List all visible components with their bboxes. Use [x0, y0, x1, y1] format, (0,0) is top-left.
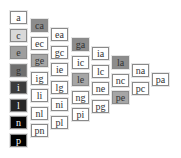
cell-e: e [10, 46, 27, 59]
cell-ne: ne [92, 82, 109, 95]
cell-p: p [10, 134, 27, 147]
cell-ea: ea [51, 28, 68, 41]
cell-ca: ca [31, 19, 48, 32]
cell-pn: pn [31, 124, 48, 137]
cell-lc: lc [92, 65, 109, 78]
cell-na: na [132, 64, 149, 77]
cell-g: g [10, 64, 27, 77]
cell-ni: ni [51, 98, 68, 111]
cell-nc: nc [112, 74, 129, 87]
cell-ig: ig [31, 72, 48, 85]
cropped-header-text: · · · · · · · · · · · · · · · · · · · [0, 0, 181, 3]
cell-lg: lg [51, 81, 68, 94]
cell-ia: ia [92, 47, 109, 60]
cell-pc: pc [132, 82, 149, 95]
cell-ic: ic [72, 56, 89, 69]
cell-pi: pi [72, 108, 89, 121]
cell-l: l [10, 99, 27, 112]
cell-li: li [31, 89, 48, 102]
cell-n: n [10, 116, 27, 129]
cell-pa: pa [152, 73, 169, 86]
cell-le: le [72, 73, 89, 86]
cell-gc: gc [51, 46, 68, 59]
cell-pe: pe [112, 91, 129, 104]
cell-la: la [112, 56, 129, 69]
cell-ga: ga [72, 38, 89, 51]
cell-c: c [10, 29, 27, 42]
cell-a: a [10, 11, 27, 24]
cell-ng: ng [72, 91, 89, 104]
cell-pg: pg [92, 100, 109, 113]
cell-ec: ec [31, 37, 48, 50]
cell-ge: ge [31, 54, 48, 67]
cell-i: i [10, 81, 27, 94]
cell-ie: ie [51, 63, 68, 76]
cell-nl: nl [31, 107, 48, 120]
cell-pl: pl [51, 116, 68, 129]
